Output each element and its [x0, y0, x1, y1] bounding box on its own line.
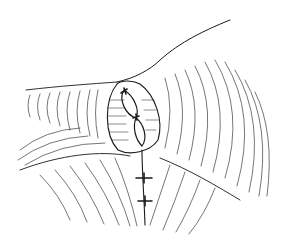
suture-line: [142, 150, 145, 225]
lower-right-contour: [160, 158, 240, 200]
suture-knot-1: [136, 173, 152, 183]
inner-incision-upper: [122, 90, 137, 118]
inner-incision-lower: [134, 118, 144, 146]
upper-contour: [117, 20, 230, 82]
illustration-canvas: [0, 0, 281, 245]
lower-hatching: [40, 158, 215, 234]
right-hatching: [165, 60, 269, 196]
suture-knot-2: [138, 196, 152, 206]
lower-left-contour: [20, 154, 130, 170]
line-drawing: [0, 0, 281, 245]
left-contour: [26, 82, 117, 90]
segment-hatching: [108, 100, 158, 140]
